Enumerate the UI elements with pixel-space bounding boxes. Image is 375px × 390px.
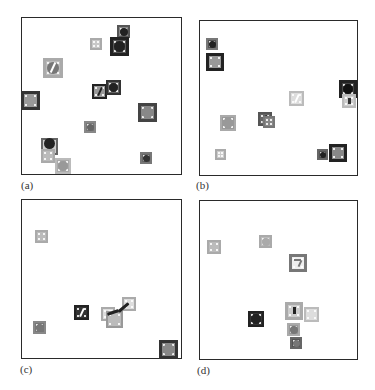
corner-dot-icon <box>97 45 99 47</box>
panel-label-b: (b) <box>196 179 209 191</box>
panel-label-a: (a) <box>21 179 33 191</box>
corner-dot-icon <box>102 94 104 96</box>
object-square-circle-icon <box>110 37 129 56</box>
object-square-circle-icon <box>248 311 264 327</box>
corner-dot-icon <box>210 249 212 251</box>
corner-dot-icon <box>34 95 36 97</box>
object-square-circle-icon <box>33 321 46 334</box>
panel-c <box>21 199 182 359</box>
corner-dot-icon <box>218 57 220 59</box>
bar-icon <box>293 307 296 314</box>
corner-dot-icon <box>351 103 353 105</box>
corner-dot-icon <box>299 101 301 103</box>
object-square-slash-light-icon <box>289 91 304 106</box>
object-square-icon <box>329 144 347 162</box>
object-square-circle-icon <box>220 115 236 131</box>
corner-dot-icon <box>93 41 95 43</box>
object-square-circle-slash-icon <box>43 58 63 78</box>
corner-dot-icon <box>25 104 27 106</box>
corner-dot-icon <box>297 306 299 308</box>
object-square-circle-icon <box>140 152 152 164</box>
bar-icon <box>348 98 351 104</box>
circle-icon <box>290 326 298 334</box>
corner-dot-icon <box>218 155 220 157</box>
corner-dot-icon <box>50 152 52 154</box>
circle-icon <box>58 161 68 171</box>
object-square-circle-icon <box>287 323 300 336</box>
corner-dot-icon <box>314 310 316 312</box>
corner-dot-icon <box>333 148 335 150</box>
corner-dot-icon <box>38 238 40 240</box>
corner-dot-icon <box>210 243 212 245</box>
circle-icon <box>87 124 94 131</box>
corner-dot-icon <box>95 87 97 89</box>
object-square-circle-icon <box>84 121 96 133</box>
circle-icon <box>143 155 150 162</box>
object-square-circle-icon <box>138 103 157 122</box>
corner-dot-icon <box>57 72 59 74</box>
corner-dot-icon <box>270 119 272 121</box>
object-square-circle-icon <box>55 158 71 174</box>
circle-icon <box>251 314 261 324</box>
corner-dot-icon <box>84 315 86 317</box>
object-square-key-icon <box>342 94 356 108</box>
circle-icon <box>209 41 216 48</box>
corner-dot-icon <box>292 94 294 96</box>
object-square-icon <box>41 149 55 163</box>
corner-dot-icon <box>333 156 335 158</box>
circle-icon <box>44 138 55 149</box>
corner-dot-icon <box>131 300 133 302</box>
corner-dot-icon <box>301 266 303 268</box>
corner-dot-icon <box>97 41 99 43</box>
corner-dot-icon <box>341 156 343 158</box>
corner-dot-icon <box>38 233 40 235</box>
object-square-slash-icon <box>74 305 89 320</box>
panel-label-d: (d) <box>197 364 210 376</box>
corner-dot-icon <box>77 308 79 310</box>
corner-dot-icon <box>43 238 45 240</box>
corner-dot-icon <box>266 123 268 125</box>
corner-dot-icon <box>109 323 111 325</box>
circle-icon <box>36 324 44 332</box>
corner-dot-icon <box>216 243 218 245</box>
corner-dot-icon <box>118 323 120 325</box>
corner-dot-icon <box>50 158 52 160</box>
corner-dot-icon <box>131 306 133 308</box>
object-square-icon <box>90 38 102 50</box>
object-square-slash-icon <box>92 84 107 99</box>
circle-icon <box>262 238 270 246</box>
circle-icon <box>343 84 353 94</box>
corner-dot-icon <box>43 233 45 235</box>
object-square-icon <box>263 116 275 128</box>
object-square-bar-icon <box>285 302 303 320</box>
corner-dot-icon <box>307 317 309 319</box>
corner-dot-icon <box>221 152 223 154</box>
object-square-circle-icon <box>206 38 218 50</box>
circle-icon <box>114 41 125 52</box>
object-square-circle-icon <box>159 340 178 359</box>
corner-dot-icon <box>221 155 223 157</box>
circle-icon <box>142 107 153 118</box>
corner-dot-icon <box>44 158 46 160</box>
object-square-icon <box>206 53 224 71</box>
corner-dot-icon <box>345 103 347 105</box>
circle-icon <box>293 340 300 347</box>
circle-icon <box>120 28 128 36</box>
corner-dot-icon <box>270 123 272 125</box>
circle-icon <box>223 118 233 128</box>
object-square-icon <box>35 230 48 243</box>
corner-dot-icon <box>210 65 212 67</box>
object-square-circle-icon <box>317 149 328 160</box>
corner-dot-icon <box>351 97 353 99</box>
corner-dot-icon <box>216 249 218 251</box>
panel-label-c: (c) <box>20 363 32 375</box>
panel-d <box>199 200 358 360</box>
corner-dot-icon <box>289 314 291 316</box>
object-square-circle-icon <box>106 80 121 95</box>
object-square-icon <box>21 91 40 110</box>
corner-dot-icon <box>34 104 36 106</box>
corner-dot-icon <box>218 65 220 67</box>
object-square-seven-icon <box>289 254 307 272</box>
corner-dot-icon <box>314 317 316 319</box>
corner-dot-icon <box>44 152 46 154</box>
